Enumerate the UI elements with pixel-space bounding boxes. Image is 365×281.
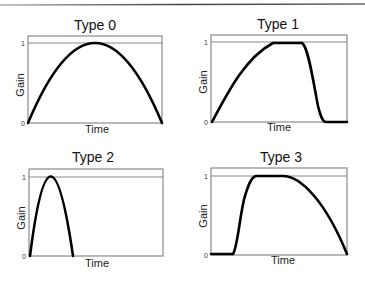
gain-curve <box>30 177 73 257</box>
ytick-1: 1 <box>204 173 208 180</box>
ytick-0: 0 <box>22 253 26 260</box>
plot-frame <box>29 169 163 256</box>
ytick-0: 0 <box>204 119 208 126</box>
panel-type-1: Type 1 1 0 Gain Time <box>197 16 347 133</box>
ytick-0: 0 <box>21 120 25 127</box>
panel-type-3: Type 3 1 0 Gain Time <box>197 149 347 266</box>
ytick-1: 1 <box>22 174 26 181</box>
plot-frame <box>211 35 347 122</box>
top-rule <box>0 4 365 5</box>
ytick-1: 1 <box>204 39 208 46</box>
panel-type-0: Type 0 1 0 Gain Time <box>14 17 162 135</box>
y-axis-label: Gain <box>197 70 209 93</box>
x-axis-label: Time <box>267 121 291 133</box>
x-axis-label: Time <box>271 254 295 266</box>
figure: Type 0 1 0 Gain Time Type 1 1 0 Gain Tim… <box>0 0 365 281</box>
gain-curve <box>211 176 347 254</box>
ytick-1: 1 <box>21 40 25 47</box>
panel-title: Type 2 <box>72 149 114 165</box>
x-axis-label: Time <box>85 123 109 135</box>
gain-curve <box>212 43 347 122</box>
plot-frame <box>28 36 162 123</box>
panel-title: Type 3 <box>260 149 302 165</box>
y-axis-label: Gain <box>15 206 27 229</box>
y-axis-label: Gain <box>197 204 209 227</box>
y-axis-label: Gain <box>14 73 26 96</box>
x-axis-label: Time <box>85 257 109 269</box>
gain-curve <box>28 43 162 123</box>
ytick-0: 0 <box>204 252 208 259</box>
panel-title: Type 0 <box>74 17 116 33</box>
panel-title: Type 1 <box>257 16 299 32</box>
panel-type-2: Type 2 1 0 Gain Time <box>15 149 163 269</box>
